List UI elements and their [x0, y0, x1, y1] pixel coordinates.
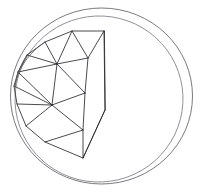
edge-hub-upper-hub-lower — [52, 64, 57, 105]
edge-apex-front-ridge-upper — [88, 31, 104, 58]
edge-v5-hub-lower — [14, 86, 52, 105]
edge-v4-hub-upper — [18, 64, 57, 72]
edge-hub-upper-front-ridge-mid — [57, 64, 85, 93]
edge-hub-upper-front-ridge-upper — [57, 58, 88, 64]
edge-hub-lower-front-ridge-lower — [52, 105, 83, 130]
wireframe-sphere-diagram — [0, 0, 203, 192]
edge-apex-silhouette-corner — [104, 31, 105, 110]
edge-v7-hub-lower — [26, 105, 52, 126]
figure-canvas — [0, 0, 203, 192]
edge-silhouette-corner-v9 — [83, 110, 105, 158]
edge-v1-front-ridge-upper — [72, 31, 88, 58]
edge-v8-front-ridge-lower — [45, 130, 83, 142]
edge-left-limb-soft-a — [15, 42, 45, 85]
edge-v4-hub-lower — [18, 72, 52, 105]
edge-v6-hub-lower — [17, 104, 52, 105]
edge-hub-lower-front-ridge-mid — [52, 93, 85, 105]
edge-front-ridge-upper-mid — [85, 58, 88, 93]
edge-front-ridge-mid-lower — [83, 93, 85, 130]
